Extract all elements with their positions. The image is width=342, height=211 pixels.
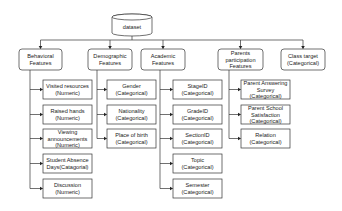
node-label-line: (Categorical) bbox=[249, 93, 281, 99]
category-node-parents: ParentsparticipationFeatures bbox=[218, 49, 263, 70]
node-label-line: (Categorical) bbox=[287, 60, 319, 66]
arrow-right-icon bbox=[170, 137, 173, 141]
arrow-down-icon bbox=[39, 46, 43, 49]
node-label-line: (Categorical) bbox=[181, 115, 213, 121]
feature-node: Discussion(Numeric) bbox=[43, 179, 92, 198]
arrow-down-icon bbox=[108, 46, 112, 49]
arrow-right-icon bbox=[170, 162, 173, 166]
arrow-down-icon bbox=[239, 46, 243, 49]
node-label-line: Features bbox=[29, 60, 51, 66]
category-node-demographic: DemographicFeatures bbox=[88, 49, 132, 70]
node-label-line: (Categorical) bbox=[115, 90, 147, 96]
node-label-line: Parent Answering bbox=[244, 80, 288, 86]
feature-node: Nationality(Categorical) bbox=[107, 105, 156, 124]
arrow-right-icon bbox=[40, 137, 43, 141]
node-label-line: (Categorical) bbox=[181, 90, 213, 96]
node-label-line: Academic bbox=[151, 53, 176, 59]
node-label-line: Demographic bbox=[93, 53, 126, 59]
dataset-label: dataset bbox=[123, 24, 142, 30]
feature-node: Topic(Categorical) bbox=[173, 154, 222, 173]
arrow-right-icon bbox=[238, 137, 241, 141]
node-label-line: (Categorical) bbox=[249, 118, 281, 124]
node-label-line: Semester bbox=[186, 182, 210, 188]
feature-node: Parent AnsweringSurvey(Categorical) bbox=[241, 80, 290, 99]
node-label-line: Features bbox=[152, 60, 174, 66]
arrow-down-icon bbox=[301, 46, 305, 49]
node-label-line: Nationality bbox=[118, 108, 144, 114]
arrow-right-icon bbox=[238, 88, 241, 92]
node-label-line: Raised hands bbox=[50, 108, 84, 114]
node-label-line: Behavioral bbox=[27, 53, 53, 59]
node-label-line: Parents bbox=[231, 50, 250, 56]
arrow-right-icon bbox=[170, 113, 173, 117]
node-label-line: Place of birth bbox=[115, 132, 148, 138]
node-label-line: Satisfaction bbox=[251, 112, 280, 118]
dataset-node: dataset bbox=[112, 14, 152, 36]
node-label-line: (Numeric) bbox=[55, 189, 80, 195]
arrow-right-icon bbox=[238, 113, 241, 117]
feature-node: SectionID(Categorical) bbox=[173, 129, 222, 148]
node-label-line: Topic bbox=[191, 157, 204, 163]
cylinder-top bbox=[112, 14, 152, 20]
node-label-line: Gender bbox=[122, 83, 141, 89]
node-label-line: announcements bbox=[48, 136, 88, 142]
feature-node: Raised hands(Numeric) bbox=[43, 105, 92, 124]
node-label-line: Days(Catagorial) bbox=[47, 164, 89, 170]
node-label-line: participation bbox=[225, 57, 255, 63]
diagram-nodes: datasetBehavioralFeaturesVisited resourc… bbox=[19, 14, 325, 198]
node-label-line: Visited resources bbox=[46, 83, 89, 89]
node-label-line: Features bbox=[99, 60, 121, 66]
node-label-line: (Categorical) bbox=[181, 164, 213, 170]
node-label-line: StageID bbox=[187, 83, 207, 89]
node-label-line: SectionID bbox=[185, 132, 209, 138]
node-label-line: GradeID bbox=[187, 108, 208, 114]
arrow-right-icon bbox=[104, 113, 107, 117]
feature-node: StageID(Categorical) bbox=[173, 80, 222, 99]
feature-hierarchy-diagram: datasetBehavioralFeaturesVisited resourc… bbox=[0, 0, 342, 211]
node-label-line: Relation bbox=[255, 132, 276, 138]
node-label-line: Features bbox=[229, 63, 251, 69]
arrow-down-icon bbox=[161, 46, 165, 49]
node-label-line: Survey bbox=[257, 87, 275, 93]
feature-node: Relation(Categorical) bbox=[241, 129, 290, 148]
arrow-right-icon bbox=[170, 88, 173, 92]
arrow-right-icon bbox=[40, 162, 43, 166]
arrow-right-icon bbox=[104, 137, 107, 141]
node-label-line: Parent School bbox=[248, 105, 283, 111]
node-label-line: Student Absence bbox=[46, 157, 88, 163]
node-label-line: (Categorical) bbox=[115, 115, 147, 121]
node-label-line: Discussion bbox=[54, 182, 81, 188]
arrow-right-icon bbox=[40, 187, 43, 191]
node-label-line: Viewing bbox=[58, 129, 78, 135]
feature-node: Visited resources(Numeric) bbox=[43, 80, 92, 99]
node-label-line: (Categorical) bbox=[249, 139, 281, 145]
feature-node: Gender(Categorical) bbox=[107, 80, 156, 99]
feature-node: GradeID(Categorical) bbox=[173, 105, 222, 124]
node-label-line: (Numeric) bbox=[55, 115, 80, 121]
node-label-line: (Categorical) bbox=[181, 139, 213, 145]
feature-node: Place of birth(Categorical) bbox=[107, 129, 156, 148]
arrow-right-icon bbox=[40, 88, 43, 92]
feature-node: Parent SchoolSatisfaction(Categorical) bbox=[241, 105, 290, 124]
node-label-line: (Numeric) bbox=[55, 90, 80, 96]
node-label-line: (Categorical) bbox=[181, 189, 213, 195]
feature-node: Viewingannouncements(Numeric) bbox=[43, 129, 92, 148]
category-node-class-target: Class target(Categorical) bbox=[281, 49, 325, 70]
node-label-line: (Numeric) bbox=[55, 142, 80, 148]
feature-node: Student AbsenceDays(Catagorial) bbox=[43, 154, 92, 173]
node-label-line: (Categorical) bbox=[115, 139, 147, 145]
arrow-right-icon bbox=[170, 187, 173, 191]
category-node-academic: AcademicFeatures bbox=[141, 49, 185, 70]
feature-node: Semester(Categorical) bbox=[173, 179, 222, 198]
category-node-behavioral: BehavioralFeatures bbox=[19, 49, 62, 70]
arrow-right-icon bbox=[40, 113, 43, 117]
node-label-line: Class target bbox=[288, 53, 318, 59]
arrow-right-icon bbox=[104, 88, 107, 92]
